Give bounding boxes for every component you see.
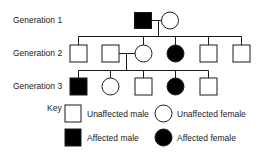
gen3-unaffected-male-2	[200, 78, 217, 95]
gen1-unaffected-female	[162, 12, 179, 29]
key-affected-male-icon	[65, 129, 81, 146]
gen1-affected-male	[135, 13, 152, 29]
key-affected-male-label: Affected male	[87, 134, 139, 143]
generation-3-label: Generation 3	[13, 82, 62, 91]
gen3-unaffected-male-1	[135, 78, 152, 95]
key-unaffected-female-label: Unaffected female	[177, 110, 246, 119]
gen2-unaffected-female	[135, 45, 152, 62]
gen2-unaffected-male-3	[233, 45, 250, 62]
key-unaffected-male-icon	[65, 105, 81, 122]
key-affected-female-label: Affected female	[177, 134, 236, 143]
gen2-unaffected-male-spouse	[102, 45, 119, 62]
key-unaffected-male-label: Unaffected male	[87, 110, 149, 119]
key-unaffected-female-icon	[155, 105, 172, 122]
gen3-affected-male	[70, 78, 87, 95]
gen2-unaffected-male-2	[200, 45, 217, 62]
gen2-affected-female	[167, 45, 184, 62]
gen3-unaffected-female	[102, 78, 119, 95]
key-affected-female-icon	[155, 129, 172, 146]
key-title: Key	[47, 104, 62, 113]
gen2-unaffected-male-1	[70, 45, 87, 62]
generation-1-label: Generation 1	[13, 16, 62, 25]
gen3-affected-female	[167, 78, 184, 95]
generation-2-label: Generation 2	[13, 49, 62, 58]
